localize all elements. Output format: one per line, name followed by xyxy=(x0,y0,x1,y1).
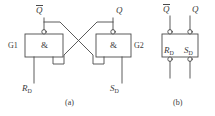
signal-label-rd-a: RD xyxy=(22,84,32,93)
gate-g1-and-symbol: & xyxy=(41,41,48,50)
wire-g1-to-g2-input xyxy=(85,47,104,64)
signal-label-sd-a: SD xyxy=(110,84,119,93)
signal-label-qbar-b: Q xyxy=(163,4,170,14)
latch-qbar-output-bubble xyxy=(168,30,172,34)
panel-caption-a: (a) xyxy=(65,99,74,107)
wire-g2-to-g1-input xyxy=(53,47,72,64)
gate-label-g1-text: G1 xyxy=(8,41,18,50)
signal-label-rd-b: RD xyxy=(164,46,174,55)
latch-sd-input-bubble xyxy=(188,57,192,61)
signal-label-q-b-text: Q xyxy=(192,4,199,14)
gate-g2-and-symbol: & xyxy=(110,41,117,50)
signal-label-qbar-b-text: Q xyxy=(163,4,170,14)
signal-label-rd-b-letter: R xyxy=(164,45,170,55)
circuit-figure: Q Q G1 & G2 & RD SD (a) Q Q RD SD (b) xyxy=(0,0,215,116)
wire-g2-to-g1-crosscouple xyxy=(72,22,113,47)
gate-g2-output-bubble xyxy=(111,30,115,34)
panel-caption-b-text: (b) xyxy=(173,98,182,107)
gate-g2-and-symbol-text: & xyxy=(110,40,117,50)
signal-label-rd-a-letter: R xyxy=(22,83,28,93)
signal-label-rd-a-sub: D xyxy=(28,88,32,94)
panel-caption-b: (b) xyxy=(173,99,182,107)
gate-label-g2-text: G2 xyxy=(134,41,144,50)
signal-label-sd-b-letter: S xyxy=(184,45,189,55)
signal-label-sd-b: SD xyxy=(184,46,193,55)
gate-label-g1: G1 xyxy=(8,42,18,50)
signal-label-q-a: Q xyxy=(116,6,123,15)
gate-g1-and-symbol-text: & xyxy=(41,40,48,50)
signal-label-q-b: Q xyxy=(192,5,199,14)
signal-label-sd-b-sub: D xyxy=(189,50,193,56)
signal-label-q-a-text: Q xyxy=(116,5,123,15)
circuit-drawing xyxy=(0,0,215,116)
panel-caption-a-text: (a) xyxy=(65,98,74,107)
signal-label-rd-b-sub: D xyxy=(170,50,174,56)
signal-label-qbar-a-text: Q xyxy=(36,5,43,15)
signal-label-qbar-a: Q xyxy=(36,5,43,15)
gate-label-g2: G2 xyxy=(134,42,144,50)
latch-q-output-bubble xyxy=(188,30,192,34)
signal-label-sd-a-letter: S xyxy=(110,83,115,93)
wire-g1-to-g2-crosscouple xyxy=(44,22,85,47)
signal-label-sd-a-sub: D xyxy=(115,88,119,94)
gate-g1-output-bubble xyxy=(42,30,46,34)
latch-rd-input-bubble xyxy=(168,57,172,61)
